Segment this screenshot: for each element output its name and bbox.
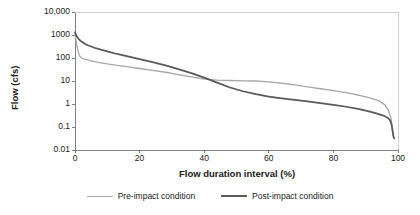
x-tick-label: 80: [318, 153, 348, 163]
plot-area: [0, 0, 420, 215]
legend-swatch-pre-impact: [87, 196, 113, 197]
x-axis-title: Flow duration interval (%): [75, 168, 399, 179]
legend-item-post-impact: Post-impact condition: [221, 191, 333, 201]
legend-swatch-post-impact: [221, 195, 247, 197]
x-tick-label: 0: [60, 153, 90, 163]
legend-label-pre-impact: Pre-impact condition: [118, 191, 195, 201]
x-tick-label: 40: [189, 153, 219, 163]
series-line-post-impact: [75, 32, 394, 138]
x-tick-label: 60: [254, 153, 284, 163]
legend-label-post-impact: Post-impact condition: [252, 191, 333, 201]
series-line-pre-impact: [75, 35, 394, 138]
chart-figure: Flow (cfs) 10,00010001001010.10.01 02040…: [0, 0, 420, 215]
chart-legend: Pre-impact condition Post-impact conditi…: [0, 191, 420, 201]
axis-tick-marks: [72, 12, 398, 153]
data-series-layer: [75, 32, 394, 138]
legend-item-pre-impact: Pre-impact condition: [87, 191, 195, 201]
x-tick-label: 20: [125, 153, 155, 163]
x-tick-label: 100: [383, 153, 413, 163]
